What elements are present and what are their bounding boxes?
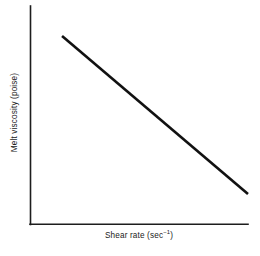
y-axis-label: Melt viscosity (poise) [11,72,20,151]
x-axis-label: Shear rate (sec−1) [30,231,248,240]
y-axis-label-container: Melt viscosity (poise) [0,0,30,224]
x-axis-label-close: ) [170,231,173,240]
data-series-line [62,36,248,194]
x-axis-label-text: Shear rate (sec [105,231,163,240]
chart-figure: Shear rate (sec−1) Melt viscosity (poise… [0,0,260,256]
plot-area [0,0,260,256]
